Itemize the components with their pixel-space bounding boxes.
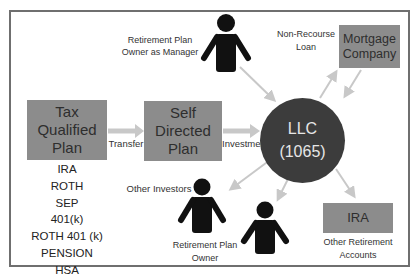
label-line: Retirement Plan xyxy=(170,239,240,252)
non-recourse-loan-label: Non-Recourse Loan xyxy=(275,28,337,54)
plan-type-item: ROTH 401 (k) xyxy=(27,228,107,245)
investment-arrow xyxy=(223,124,260,138)
label-line: Accounts xyxy=(318,249,398,262)
plan-type-item: IRA xyxy=(27,161,107,178)
node-label-line: Plan xyxy=(168,140,198,158)
person-icon xyxy=(240,201,290,255)
node-label-line: Self xyxy=(170,104,196,122)
node-label-line: Directed xyxy=(155,122,211,140)
node-label-line: Mortgage xyxy=(343,32,396,47)
plan-owner-label: Retirement Plan Owner xyxy=(170,239,240,264)
node-label-line: (1065) xyxy=(279,141,325,163)
plan-type-item: SEP xyxy=(27,195,107,212)
label-line: Non-Recourse xyxy=(275,28,337,41)
plan-types-list: IRA ROTH SEP 401(k) ROTH 401 (k) PENSION… xyxy=(27,161,107,278)
llc-to-ira-arrow xyxy=(336,169,354,196)
label-line: Owner xyxy=(170,252,240,265)
tax-qualified-plan-node[interactable]: Tax Qualified Plan xyxy=(27,100,107,160)
mortgage-company-node[interactable]: Mortgage Company xyxy=(339,25,400,68)
node-label-line: Qualified xyxy=(37,121,96,139)
llc-to-mortgage-arrow xyxy=(320,72,336,98)
node-label-line: LLC xyxy=(288,118,317,140)
other-retirement-accounts-label: Other Retirement Accounts xyxy=(318,236,398,262)
label-line: Other Retirement xyxy=(318,236,398,249)
transfer-arrow xyxy=(108,124,144,138)
mortgage-to-llc-arrow xyxy=(345,70,361,96)
node-label-line: IRA xyxy=(347,210,369,225)
investment-label: Investment xyxy=(222,137,262,151)
person-icon xyxy=(176,178,228,234)
plan-type-item: PENSION xyxy=(27,245,107,262)
label-line: Loan xyxy=(275,41,337,54)
node-label-line: Company xyxy=(343,47,397,62)
manager-label: Retirement Plan Owner as Manager xyxy=(118,34,202,58)
node-label-line: Tax xyxy=(55,103,78,121)
llc-node[interactable]: LLC (1065) xyxy=(260,98,345,183)
ira-node[interactable]: IRA xyxy=(323,203,393,233)
plan-type-item: 401(k) xyxy=(27,211,107,228)
plan-type-item: HSA xyxy=(27,262,107,279)
plan-type-item: ROTH xyxy=(27,178,107,195)
person-icon xyxy=(200,13,252,73)
transfer-label: Transfer xyxy=(107,137,145,151)
label-line: Owner as Manager xyxy=(118,46,202,58)
node-label-line: Plan xyxy=(52,139,82,157)
label-line: Retirement Plan xyxy=(118,34,202,46)
self-directed-plan-node[interactable]: Self Directed Plan xyxy=(144,101,222,161)
